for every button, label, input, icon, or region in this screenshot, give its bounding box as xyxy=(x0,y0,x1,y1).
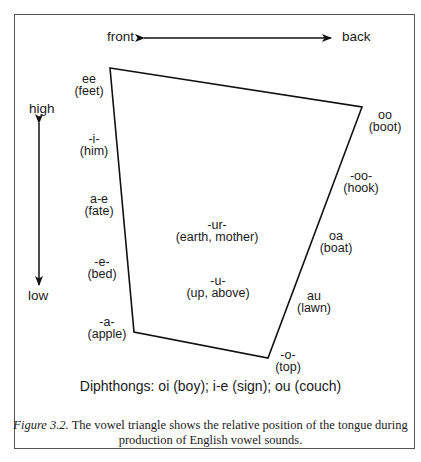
vowel-label-a-e: a-e (fate) xyxy=(84,193,113,217)
vowel-label-u: -u- (up, above) xyxy=(186,275,249,299)
vowel-label-e: -e- (bed) xyxy=(87,256,116,280)
vowel-example: (top) xyxy=(275,361,301,373)
figure-caption: Figure 3.2. The vowel triangle shows the… xyxy=(0,418,421,448)
vowel-example: (feet) xyxy=(74,85,103,97)
vowel-example: (lawn) xyxy=(297,302,331,314)
vowel-example: (hook) xyxy=(343,182,378,194)
vowel-label-o: -o- (top) xyxy=(275,349,301,373)
high-label: high xyxy=(29,101,55,116)
vowel-label-oa: oa (boat) xyxy=(320,230,353,254)
vowel-example: (up, above) xyxy=(186,287,249,299)
vowel-label-ee: ee (feet) xyxy=(74,73,103,97)
vowel-label-oo-short: -oo- (hook) xyxy=(343,170,378,194)
vowel-label-ur: -ur- (earth, mother) xyxy=(176,219,259,243)
vowel-example: (boat) xyxy=(320,242,353,254)
vowel-example: (him) xyxy=(80,145,108,157)
back-label: back xyxy=(342,29,371,44)
vowel-label-oo: oo (boot) xyxy=(369,109,402,133)
vowel-example: (fate) xyxy=(84,205,113,217)
diphthongs-note: Diphthongs: oi (boy); i-e (sign); ou (co… xyxy=(0,378,421,394)
vowel-label-a: -a- (apple) xyxy=(88,316,127,340)
figure-label: Figure 3.2. xyxy=(13,418,68,432)
vowel-example: (apple) xyxy=(88,328,127,340)
low-label: low xyxy=(28,288,48,303)
front-label: front xyxy=(107,29,134,44)
vowel-example: (earth, mother) xyxy=(176,231,259,243)
vowel-label-i: -i- (him) xyxy=(80,133,108,157)
vowel-label-au: au (lawn) xyxy=(297,290,331,314)
caption-text: The vowel triangle shows the relative po… xyxy=(69,418,408,447)
vowel-example: (bed) xyxy=(87,268,116,280)
vowel-example: (boot) xyxy=(369,121,402,133)
